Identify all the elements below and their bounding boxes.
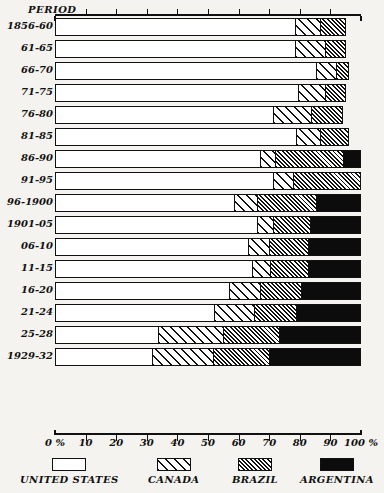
bar-segment-us (56, 217, 257, 233)
bar-segment-ca (257, 217, 274, 233)
bar-row: 91-95 (0, 171, 384, 193)
bar-row-label: 16-20 (0, 284, 53, 295)
bar-segment-us (56, 195, 234, 211)
bottom-axis-left-cap (54, 430, 56, 435)
stacked-bar (55, 84, 346, 102)
stacked-bar (55, 128, 349, 146)
bar-segment-ca (158, 327, 223, 343)
bar-row-label: 81-85 (0, 130, 53, 141)
x-tick-label: 100 % (344, 437, 378, 448)
bar-segment-br (213, 349, 269, 365)
stacked-bar (55, 304, 361, 322)
bar-segment-us (56, 239, 248, 255)
bar-segment-ca (298, 85, 325, 101)
bar-segment-ca (214, 305, 254, 321)
bar-row: 66-70 (0, 61, 384, 83)
bar-row-label: 25-28 (0, 328, 53, 339)
stacked-bar (55, 106, 343, 124)
stacked-bar (55, 62, 349, 80)
bar-segment-ar (343, 151, 360, 167)
bar-segment-br (254, 305, 297, 321)
bar-segment-br (257, 195, 316, 211)
bar-segment-ar (279, 327, 360, 343)
bar-segment-br (320, 19, 344, 35)
legend-label: BRAZIL (232, 474, 278, 485)
bar-segment-br (311, 107, 341, 123)
bar-row-label: 76-80 (0, 108, 53, 119)
bar-segment-ca (295, 19, 321, 35)
x-tick-label: 30 (140, 437, 154, 448)
bar-row: 16-20 (0, 281, 384, 303)
bar-segment-ca (248, 239, 269, 255)
bar-row: 76-80 (0, 105, 384, 127)
stacked-bar (55, 260, 361, 278)
legend-item-ar[interactable]: ARGENTINA (300, 458, 374, 485)
bar-segment-ca (234, 195, 257, 211)
bar-segment-ca (273, 107, 311, 123)
bar-segment-ca (260, 151, 275, 167)
x-tick-label: 70 (262, 437, 276, 448)
legend-item-br[interactable]: BRAZIL (232, 458, 278, 485)
bar-segment-us (56, 283, 229, 299)
bar-segment-ca (295, 41, 325, 57)
legend-swatch-us (52, 458, 86, 471)
bar-segment-us (56, 151, 260, 167)
bar-segment-ca (229, 283, 259, 299)
bar-row-label: 1929-32 (0, 350, 53, 361)
bar-row: 86-90 (0, 149, 384, 171)
stacked-bar (55, 150, 361, 168)
bar-segment-ar (308, 239, 360, 255)
stacked-bar (55, 216, 361, 234)
bar-segment-us (56, 19, 295, 35)
bar-row: 96-1900 (0, 193, 384, 215)
bar-row-label: 06-10 (0, 240, 53, 251)
legend-label: ARGENTINA (300, 474, 374, 485)
bar-row-label: 71-75 (0, 86, 53, 97)
bar-row-label: 1856-60 (0, 20, 53, 31)
bar-segment-br (325, 85, 345, 101)
bar-row: 61-65 (0, 39, 384, 61)
bar-segment-us (56, 41, 295, 57)
bar-segment-us (56, 261, 252, 277)
bar-segment-us (56, 85, 298, 101)
legend-item-us[interactable]: UNITED STATES (20, 458, 119, 485)
bar-segment-ar (296, 305, 360, 321)
bar-row: 25-28 (0, 325, 384, 347)
x-tick-label: 60 (232, 437, 246, 448)
stacked-bar (55, 282, 361, 300)
bar-row: 06-10 (0, 237, 384, 259)
chart-legend: UNITED STATESCANADABRAZILARGENTINA (0, 458, 384, 490)
x-tick-label: 90 (323, 437, 337, 448)
bar-segment-br (336, 63, 348, 79)
bar-segment-ca (316, 63, 336, 79)
top-axis-tick (269, 9, 270, 16)
bar-segment-ca (296, 129, 320, 145)
bar-row-label: 11-15 (0, 262, 53, 273)
stacked-bar (55, 326, 361, 344)
bar-row: 1901-05 (0, 215, 384, 237)
x-tick-label: 10 (79, 437, 93, 448)
top-axis-tick (208, 9, 209, 16)
legend-item-ca[interactable]: CANADA (148, 458, 199, 485)
bar-row: 81-85 (0, 127, 384, 149)
bar-segment-br (275, 151, 343, 167)
bar-row-label: 86-90 (0, 152, 53, 163)
bar-segment-us (56, 107, 273, 123)
bar-segment-br (269, 239, 309, 255)
bottom-axis-right-cap (360, 430, 362, 435)
top-axis-tick (239, 9, 240, 16)
bar-segment-us (56, 305, 214, 321)
bar-row: 1929-32 (0, 347, 384, 369)
top-axis-tick (330, 9, 331, 16)
bar-segment-ar (301, 283, 360, 299)
bar-segment-ar (316, 195, 360, 211)
bar-segment-br (223, 327, 279, 343)
x-tick-label: 20 (109, 437, 123, 448)
stacked-bar (55, 348, 361, 366)
legend-label: UNITED STATES (20, 474, 119, 485)
stacked-bar (55, 172, 361, 190)
bar-segment-us (56, 349, 152, 365)
legend-label: CANADA (148, 474, 199, 485)
bar-segment-br (260, 283, 301, 299)
bar-segment-ca (273, 173, 293, 189)
